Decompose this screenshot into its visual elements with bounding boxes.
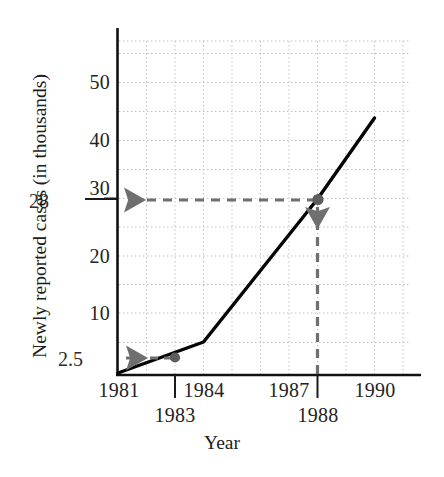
data-point-1988 (312, 194, 323, 205)
y-annotation-label-2-5: 2.5 (58, 348, 83, 371)
x-tick-label-1984: 1984 (176, 380, 232, 400)
grid-lines (119, 41, 410, 374)
y-tick-label-40: 40 (58, 130, 110, 150)
y-tick-label-10: 10 (58, 303, 110, 323)
x-sub-tick-label-1988: 1988 (290, 405, 346, 425)
x-sub-tick-label-1983: 1983 (147, 405, 203, 425)
y-axis-title: Newly reported cases (in thousands) (29, 66, 51, 366)
x-tick-label-1981: 1981 (91, 380, 147, 400)
x-axis-title: Year (0, 432, 444, 454)
data-line (118, 118, 375, 373)
chart-figure: 50 40 30 20 10 28 2.5 1981 1984 1987 199… (0, 0, 444, 477)
x-tick-label-1987: 1987 (261, 380, 317, 400)
data-point-1983 (170, 352, 180, 362)
y-tick-label-20: 20 (58, 246, 110, 266)
y-tick-label-50: 50 (58, 72, 110, 92)
x-tick-label-1990: 1990 (347, 380, 403, 400)
y-tick-label-30: 30 (58, 178, 110, 198)
